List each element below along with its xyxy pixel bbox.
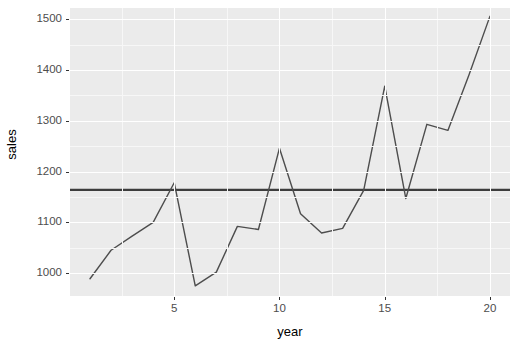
y-axis-tickmark [66, 172, 69, 173]
gridline-minor-horizontal [70, 248, 510, 249]
gridline-major-horizontal [70, 70, 510, 71]
x-axis-tick-label: 5 [154, 302, 194, 314]
y-axis-tick-label: 1500 [22, 12, 62, 24]
x-axis-tickmark [174, 297, 175, 300]
y-axis-title-text: sales [4, 129, 19, 159]
y-axis-tick-label: 1300 [22, 114, 62, 126]
gridline-minor-vertical [122, 8, 123, 296]
gridline-major-vertical [279, 8, 280, 296]
gridline-major-horizontal [70, 172, 510, 173]
y-axis-tickmark [66, 222, 69, 223]
data-layer [70, 8, 510, 296]
gridline-minor-vertical [332, 8, 333, 296]
series-line-sales [90, 16, 490, 286]
gridline-major-horizontal [70, 222, 510, 223]
y-axis-tick-label: 1200 [22, 165, 62, 177]
gridline-major-horizontal [70, 19, 510, 20]
x-axis-tick-label: 10 [259, 302, 299, 314]
y-axis-tickmark [66, 70, 69, 71]
gridline-major-vertical [385, 8, 386, 296]
gridline-minor-vertical [227, 8, 228, 296]
gridline-major-horizontal [70, 273, 510, 274]
y-axis-tick-label: 1400 [22, 63, 62, 75]
gridline-major-vertical [174, 8, 175, 296]
y-axis-tickmark [66, 273, 69, 274]
gridline-major-vertical [490, 8, 491, 296]
y-axis-tick-label: 1100 [22, 215, 62, 227]
y-axis-title: sales [2, 0, 20, 288]
y-axis-tickmark [66, 121, 69, 122]
plot-panel [70, 8, 510, 296]
x-axis-tick-label: 20 [470, 302, 510, 314]
x-axis-title: year [70, 324, 510, 339]
chart-container: sales 1000110012001300140015005101520 ye… [0, 0, 531, 353]
x-axis-tickmark [279, 297, 280, 300]
x-axis-title-text: year [277, 324, 302, 339]
gridline-minor-horizontal [70, 95, 510, 96]
gridline-minor-horizontal [70, 197, 510, 198]
x-axis-tickmark [490, 297, 491, 300]
gridline-minor-vertical [437, 8, 438, 296]
gridline-major-horizontal [70, 121, 510, 122]
gridline-minor-horizontal [70, 146, 510, 147]
gridline-minor-horizontal [70, 45, 510, 46]
x-axis-tick-label: 15 [365, 302, 405, 314]
y-axis-tick-label: 1000 [22, 266, 62, 278]
y-axis-tickmark [66, 19, 69, 20]
x-axis-tickmark [385, 297, 386, 300]
